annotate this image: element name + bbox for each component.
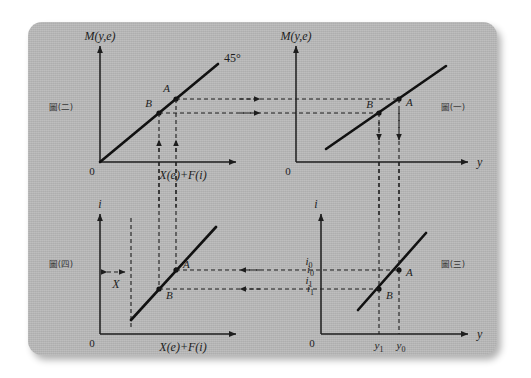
top-left-y-axis-label: M(y,e): [84, 29, 116, 43]
top-right-point-b-label: B: [366, 98, 373, 110]
bottom-right-x-tick-y0: y0: [396, 339, 406, 354]
bottom-left-y-axis-label: i: [98, 197, 101, 211]
top-right-point-a-label: A: [405, 96, 413, 108]
figure-card: 圖(二) 圖(一) 圖(四) 圖(三) M(y,e: [28, 22, 497, 355]
top-right-y-axis-label: M(y,e): [280, 29, 312, 43]
panel-bottom-right: i y 0 A B y1 y0 i0: [307, 197, 483, 354]
diagram-canvas: M(y,e) X(e)+F(i) 0 45° B A M(y,e) y: [28, 22, 497, 355]
top-left-x-axis-label: X(e)+F(i): [158, 168, 206, 182]
bottom-transfer-connectors: [159, 270, 399, 289]
bottom-right-x-tick-y1: y1: [374, 339, 384, 354]
top-left-origin-label: 0: [89, 165, 95, 177]
bottom-left-schedule-line: [131, 227, 216, 320]
bottom-left-origin-label: 0: [89, 337, 95, 349]
panel-top-left: M(y,e) X(e)+F(i) 0 45° B A: [84, 29, 241, 207]
bottom-right-point-b-label: B: [386, 289, 393, 301]
bottom-right-point-a-label: A: [405, 266, 413, 278]
top-transfer-connectors: [159, 99, 399, 113]
top-left-point-b-label: B: [145, 97, 152, 109]
bottom-right-origin-label: 0: [309, 337, 315, 349]
top-right-x-axis-label: y: [476, 155, 483, 169]
bottom-left-x-gap-label: X: [111, 277, 120, 291]
bottom-left-point-a-label: A: [182, 258, 190, 270]
bottom-left-point-b-label: B: [166, 289, 173, 301]
top-left-point-a-label: A: [162, 82, 170, 94]
bottom-right-x-axis-label: y: [476, 327, 483, 341]
bottom-right-y-axis-label: i: [314, 197, 317, 211]
top-right-money-demand-line: [326, 66, 446, 149]
panel-bottom-left: i X(e)+F(i) 0 X A B: [89, 197, 236, 354]
panel-top-right: M(y,e) y 0 B A: [280, 29, 483, 218]
bottom-left-x-axis-label: X(e)+F(i): [158, 340, 206, 354]
top-left-45-degree-label: 45°: [224, 51, 241, 65]
top-right-origin-label: 0: [285, 165, 291, 177]
